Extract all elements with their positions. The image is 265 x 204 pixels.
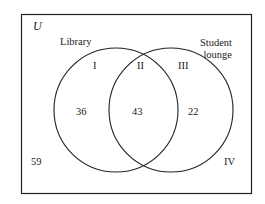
library-circle [54, 48, 178, 172]
region-label-iii: III [178, 61, 189, 72]
region-value-ii: 43 [132, 107, 143, 118]
library-set-label: Library [60, 37, 92, 48]
region-label-i: I [93, 61, 97, 72]
region-value-iii: 22 [188, 107, 199, 118]
region-label-ii: II [137, 61, 144, 72]
region-label-iv: IV [224, 157, 235, 168]
region-value-iv: 59 [31, 157, 42, 168]
region-value-i: 36 [76, 107, 87, 118]
universe-label: U [33, 20, 42, 32]
student-lounge-set-label: Student lounge [188, 37, 232, 61]
student-lounge-line2: lounge [188, 49, 232, 61]
student-lounge-circle [109, 48, 233, 172]
student-lounge-line1: Student [188, 37, 232, 49]
